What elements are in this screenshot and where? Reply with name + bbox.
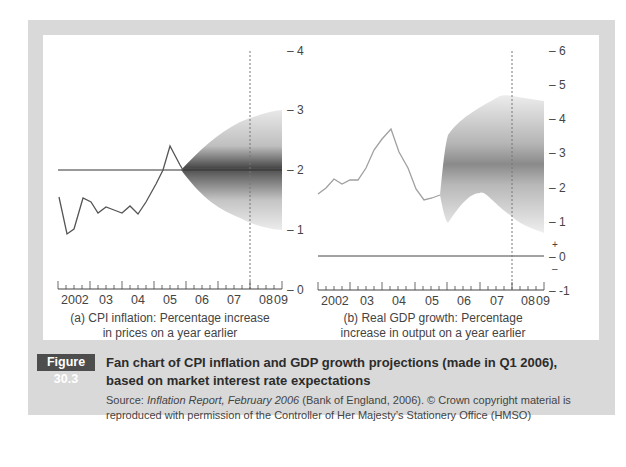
minus-sign: – xyxy=(552,263,558,274)
panel-b-caption-line2: increase in output on a year earlier xyxy=(320,326,546,341)
source-publication: Inflation Report, February 2006 xyxy=(147,394,299,406)
svg-text:– 2: – 2 xyxy=(549,181,566,195)
cpi-x-tick-labels: 2002 03 04 05 06 07 08 09 xyxy=(61,293,288,307)
svg-text:06: 06 xyxy=(457,294,471,308)
panel-b-caption-line1: (b) Real GDP growth: Percentage xyxy=(320,311,546,326)
svg-text:– 1: – 1 xyxy=(287,223,304,237)
svg-text:03: 03 xyxy=(99,293,113,307)
svg-text:03: 03 xyxy=(360,294,374,308)
svg-text:04: 04 xyxy=(131,293,145,307)
cpi-y-tick-labels: – 0 – 1 – 2 – 3 – 4 xyxy=(287,44,304,297)
panel-a-cpi: 2002 03 04 05 06 07 08 09 – 0 – 1 – 2 – … xyxy=(58,44,304,307)
svg-text:– 4: – 4 xyxy=(549,112,566,126)
gdp-fan-projection xyxy=(440,95,544,233)
svg-text:04: 04 xyxy=(392,294,406,308)
cpi-x-ticks xyxy=(58,281,282,289)
gdp-actual-line xyxy=(318,129,440,200)
svg-text:08: 08 xyxy=(521,294,535,308)
gdp-x-tick-labels: 2002 03 04 05 06 07 08 09 xyxy=(321,294,550,308)
svg-text:– 5: – 5 xyxy=(549,78,566,92)
figure-title: Fan chart of CPI inflation and GDP growt… xyxy=(106,354,586,390)
source-prefix: Source: xyxy=(106,394,147,406)
svg-text:– 3: – 3 xyxy=(549,146,566,160)
svg-text:– 2: – 2 xyxy=(287,163,304,177)
svg-text:– 4: – 4 xyxy=(287,44,304,58)
svg-text:2002: 2002 xyxy=(61,293,89,307)
svg-text:– 0: – 0 xyxy=(287,283,304,297)
plus-sign: + xyxy=(552,239,558,250)
panel-b-caption: (b) Real GDP growth: Percentage increase… xyxy=(320,311,546,341)
svg-text:06: 06 xyxy=(195,293,209,307)
svg-text:– 3: – 3 xyxy=(287,103,304,117)
svg-text:07: 07 xyxy=(490,294,504,308)
gdp-x-ticks xyxy=(318,282,544,290)
panel-a-caption-line1: (a) CPI inflation: Percentage increase xyxy=(60,311,280,326)
svg-text:– 6: – 6 xyxy=(549,44,566,58)
panel-a-caption-line2: in prices on a year earlier xyxy=(60,326,280,341)
panel-b-gdp: 2002 03 04 05 06 07 08 09 – -1 – 0 – 1 –… xyxy=(318,44,570,308)
svg-text:05: 05 xyxy=(425,294,439,308)
svg-text:2002: 2002 xyxy=(321,294,349,308)
figure-source: Source: Inflation Report, February 2006 … xyxy=(106,393,576,422)
svg-text:– 1: – 1 xyxy=(549,215,566,229)
svg-text:– 0: – 0 xyxy=(549,250,566,264)
svg-text:05: 05 xyxy=(163,293,177,307)
gdp-y-tick-labels: – -1 – 0 – 1 – 2 – 3 – 4 – 5 – 6 + – xyxy=(549,44,570,298)
svg-text:08: 08 xyxy=(259,293,273,307)
cpi-actual-line xyxy=(59,146,183,234)
panel-a-caption: (a) CPI inflation: Percentage increase i… xyxy=(60,311,280,341)
figure-number-badge: Figure 30.3 xyxy=(37,354,95,371)
svg-text:09: 09 xyxy=(536,294,550,308)
svg-text:09: 09 xyxy=(274,293,288,307)
svg-text:07: 07 xyxy=(227,293,241,307)
svg-text:– -1: – -1 xyxy=(549,284,570,298)
